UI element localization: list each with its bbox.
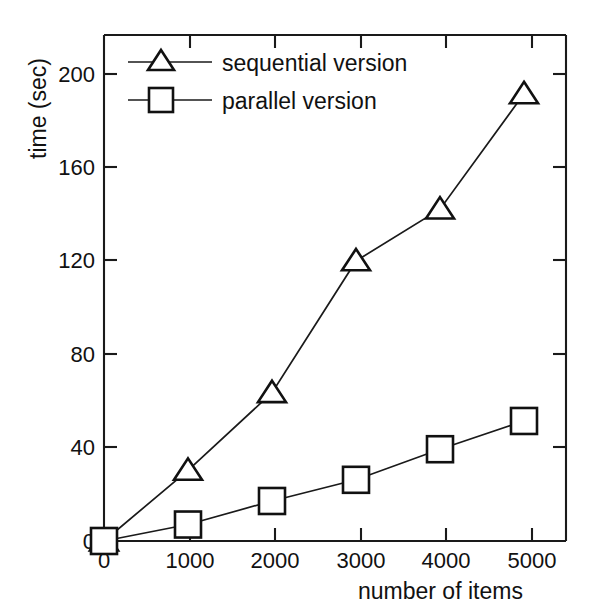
- marker-square-icon: [511, 408, 537, 434]
- marker-triangle-up-icon: [258, 381, 286, 402]
- legend-label-sequential: sequential version: [222, 50, 407, 76]
- marker-triangle-up-icon: [510, 82, 538, 103]
- marker-triangle-up-icon: [426, 197, 454, 218]
- marker-square-icon: [91, 528, 117, 554]
- x-ticklabel-3000: 3000: [337, 548, 386, 573]
- square-icon: [149, 88, 173, 112]
- right-axis-ticks: [553, 74, 566, 447]
- x-axis-ticks: [104, 528, 532, 541]
- series-line: [104, 421, 524, 541]
- chart-legend: sequential version parallel version: [128, 50, 407, 114]
- x-axis-title: number of items: [358, 578, 523, 605]
- marker-triangle-up-icon: [342, 249, 370, 270]
- legend-entry-parallel: parallel version: [128, 88, 377, 114]
- series-sequential: [90, 82, 538, 551]
- data-series-layer: [90, 82, 538, 554]
- marker-square-icon: [427, 436, 453, 462]
- series-line: [104, 94, 524, 541]
- y-ticklabel-40: 40: [71, 435, 95, 460]
- marker-square-icon: [175, 512, 201, 538]
- series-parallel: [91, 408, 537, 554]
- y-axis-tick-labels: 200 160 120 80 40 0: [58, 62, 95, 554]
- top-axis-ticks: [190, 35, 532, 48]
- marker-square-icon: [343, 467, 369, 493]
- x-axis-tick-labels: 0 1000 2000 3000 4000 5000: [98, 548, 557, 573]
- x-ticklabel-4000: 4000: [422, 548, 471, 573]
- legend-entry-sequential: sequential version: [128, 50, 407, 76]
- y-ticklabel-80: 80: [71, 342, 95, 367]
- x-ticklabel-5000: 5000: [508, 548, 557, 573]
- y-axis-title: time (sec): [25, 9, 52, 209]
- chart-figure: 200 160 120 80 40 0: [0, 0, 611, 615]
- y-axis-ticks: [104, 74, 117, 541]
- x-ticklabel-2000: 2000: [251, 548, 300, 573]
- y-ticklabel-120: 120: [58, 248, 95, 273]
- y-ticklabel-200: 200: [58, 62, 95, 87]
- triangle-up-icon: [148, 50, 174, 70]
- x-ticklabel-1000: 1000: [166, 548, 215, 573]
- legend-label-parallel: parallel version: [222, 88, 377, 114]
- line-chart-plot: 200 160 120 80 40 0: [0, 0, 611, 615]
- marker-square-icon: [259, 488, 285, 514]
- y-ticklabel-160: 160: [58, 155, 95, 180]
